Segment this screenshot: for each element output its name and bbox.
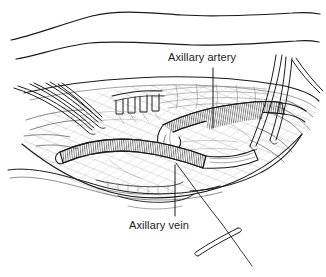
illustration-canvas <box>0 0 326 277</box>
label-axillary-vein: Axillary vein <box>129 219 189 231</box>
skin-contour-upper <box>11 12 320 40</box>
label-axillary-artery: Axillary artery <box>168 51 236 63</box>
surgical-illustration-figure: Axillary artery Axillary vein <box>0 0 326 277</box>
